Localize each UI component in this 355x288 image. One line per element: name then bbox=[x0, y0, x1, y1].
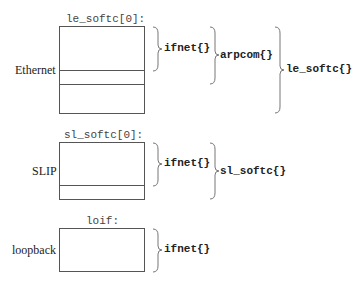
ethernet-struct-title: le_softc[0]: bbox=[66, 13, 145, 25]
arpcom-label: arpcom{} bbox=[220, 49, 273, 61]
loif-box bbox=[59, 228, 145, 272]
loopback-ifnet-label: ifnet{} bbox=[164, 243, 210, 255]
loopback-ifnet-brace-icon bbox=[152, 229, 164, 272]
ethernet-label: Ethernet bbox=[15, 63, 56, 78]
ifnet-brace-icon bbox=[152, 27, 164, 71]
ethernet-ifnet-label: ifnet{} bbox=[164, 42, 210, 54]
slip-ifnet-brace-icon bbox=[152, 143, 164, 186]
le-softc-brace-icon bbox=[274, 27, 286, 113]
slip-ifnet-divider bbox=[59, 185, 145, 186]
loopback-label: loopback bbox=[12, 243, 56, 258]
loopback-struct-title: loif: bbox=[86, 215, 119, 227]
arpcom-divider bbox=[59, 84, 145, 85]
sl-softc-box bbox=[59, 142, 145, 200]
slip-ifnet-label: ifnet{} bbox=[164, 157, 210, 169]
slip-struct-title: sl_softc[0]: bbox=[64, 129, 143, 141]
le-softc-label: le_softc{} bbox=[286, 63, 352, 75]
slip-label: SLIP bbox=[32, 164, 57, 179]
ifnet-divider bbox=[59, 70, 145, 71]
sl-softc-label: sl_softc{} bbox=[220, 165, 286, 177]
